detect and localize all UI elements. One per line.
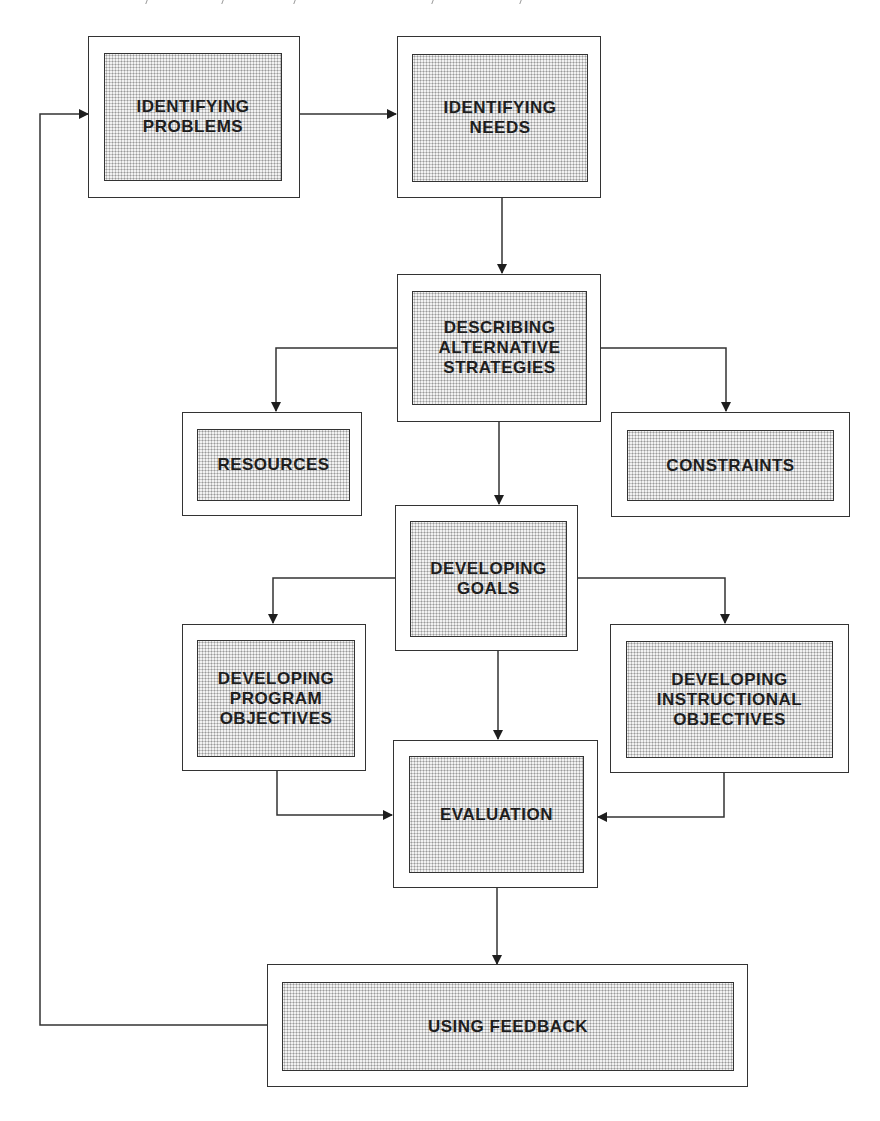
node-developing-instructional-objectives-shaded: DEVELOPING INSTRUCTIONAL OBJECTIVES <box>626 641 833 758</box>
node-identifying-problems-shaded: IDENTIFYING PROBLEMS <box>104 53 282 181</box>
node-evaluation-shaded: EVALUATION <box>409 756 584 873</box>
node-using-feedback-shaded: USING FEEDBACK <box>282 982 734 1071</box>
node-label: DEVELOPING INSTRUCTIONAL OBJECTIVES <box>657 670 802 730</box>
cropped-caption-fragment <box>431 0 437 4</box>
node-label: CONSTRAINTS <box>666 456 794 476</box>
node-evaluation: EVALUATION <box>393 740 598 888</box>
node-describing-alternative-strategies-shaded: DESCRIBING ALTERNATIVE STRATEGIES <box>412 291 587 405</box>
cropped-caption-fragment <box>293 0 299 4</box>
node-label: IDENTIFYING PROBLEMS <box>136 97 249 137</box>
node-developing-goals-shaded: DEVELOPING GOALS <box>410 521 567 637</box>
cropped-caption-fragment <box>221 0 227 4</box>
node-developing-goals: DEVELOPING GOALS <box>395 505 578 651</box>
edge-goals-to-instructional <box>577 578 725 623</box>
node-describing-alternative-strategies: DESCRIBING ALTERNATIVE STRATEGIES <box>397 274 601 422</box>
node-label: DESCRIBING ALTERNATIVE STRATEGIES <box>439 318 561 378</box>
node-label: RESOURCES <box>217 455 329 475</box>
edge-feedback-to-problems <box>40 114 267 1025</box>
node-constraints: CONSTRAINTS <box>611 412 850 517</box>
node-label: EVALUATION <box>440 805 553 825</box>
edge-strategies-to-constraints <box>600 348 726 411</box>
node-label: USING FEEDBACK <box>428 1017 588 1037</box>
node-resources: RESOURCES <box>182 412 362 516</box>
node-label: IDENTIFYING NEEDS <box>443 98 556 138</box>
node-identifying-problems: IDENTIFYING PROBLEMS <box>88 36 300 198</box>
cropped-caption-fragment <box>519 0 525 4</box>
node-label: DEVELOPING PROGRAM OBJECTIVES <box>218 669 334 729</box>
node-developing-program-objectives: DEVELOPING PROGRAM OBJECTIVES <box>182 624 366 771</box>
edge-goals-to-program <box>273 578 395 623</box>
node-developing-instructional-objectives: DEVELOPING INSTRUCTIONAL OBJECTIVES <box>610 624 849 773</box>
node-resources-shaded: RESOURCES <box>197 429 350 501</box>
node-identifying-needs-shaded: IDENTIFYING NEEDS <box>412 54 588 182</box>
node-developing-program-objectives-shaded: DEVELOPING PROGRAM OBJECTIVES <box>197 640 355 757</box>
cropped-caption-fragment <box>145 0 151 4</box>
edge-program-to-evaluation <box>277 771 392 815</box>
edge-instructional-to-evaluation <box>598 773 724 817</box>
node-identifying-needs: IDENTIFYING NEEDS <box>397 36 601 198</box>
node-using-feedback: USING FEEDBACK <box>267 964 748 1087</box>
node-constraints-shaded: CONSTRAINTS <box>627 430 834 501</box>
node-label: DEVELOPING GOALS <box>430 559 546 599</box>
edge-strategies-to-resources <box>276 348 397 411</box>
